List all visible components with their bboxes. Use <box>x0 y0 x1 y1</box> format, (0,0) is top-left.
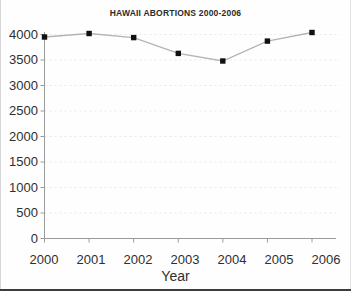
data-point-marker <box>42 34 47 39</box>
chart-container: HAWAII ABORTIONS 2000-2006 4000 3500 300… <box>0 0 351 291</box>
data-point-marker <box>176 51 181 56</box>
data-point-marker <box>265 38 270 43</box>
series-markers-group <box>42 30 315 64</box>
data-point-marker <box>220 58 225 63</box>
data-point-marker <box>131 35 136 40</box>
data-point-marker <box>86 31 91 36</box>
plot-area <box>0 0 351 291</box>
gridlines-group <box>45 35 341 214</box>
axis-ticks-group <box>41 35 313 243</box>
series-line-abortions <box>45 33 313 62</box>
data-point-marker <box>309 30 314 35</box>
